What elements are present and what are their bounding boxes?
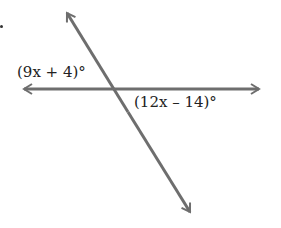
lines-svg bbox=[0, 0, 281, 228]
diagram: (9x + 4)° (12x – 14)° bbox=[0, 0, 281, 228]
bullet-mark bbox=[0, 25, 3, 28]
transversal-line bbox=[67, 13, 190, 212]
angle-label-left: (9x + 4)° bbox=[17, 63, 86, 81]
angle-label-right: (12x – 14)° bbox=[134, 93, 217, 111]
